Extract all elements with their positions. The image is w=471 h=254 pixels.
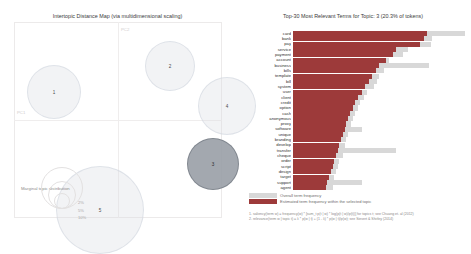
topic-frequency-bar [293, 127, 345, 132]
topic-circle-label-5: 5 [99, 208, 102, 213]
topic-circle-label-1: 1 [53, 90, 56, 95]
pc2-axis-label: PC2 [121, 27, 129, 32]
marginal-size-label-10%: 10% [78, 215, 86, 220]
topic-frequency-bar [293, 95, 358, 100]
marginal-size-label-5%: 5% [78, 208, 84, 213]
term-bar-chart: cardbankpayservicepaymentaccountbusiness… [259, 31, 467, 191]
intertopic-distance-map-panel: Intertopic Distance Map (via multidimens… [0, 0, 235, 243]
topic-frequency-bar [293, 137, 341, 142]
intertopic-map-title: Intertopic Distance Map (via multidimens… [0, 13, 235, 19]
pc1-axis-line [14, 120, 222, 121]
marginal-size-label-2%: 2% [78, 200, 84, 205]
topic-frequency-bar [293, 159, 334, 164]
topic-frequency-bar [293, 42, 420, 47]
footnote-line: 2. relevance(term w | topic t) = λ * p(w… [249, 217, 471, 222]
topic-frequency-bar [293, 105, 353, 110]
term-bar-row[interactable]: agent [259, 185, 467, 190]
pc1-axis-label: PC1 [17, 110, 25, 115]
top-terms-title: Top-30 Most Relevant Terms for Topic: 3 … [235, 13, 471, 19]
term-label: agent [259, 185, 291, 190]
topic-frequency-bar [293, 63, 379, 68]
legend-text-estimated-term-frequency: Estimated term frequency within the sele… [280, 199, 371, 204]
top-terms-panel: Top-30 Most Relevant Terms for Topic: 3 … [235, 0, 471, 243]
topic-frequency-bar [293, 52, 393, 57]
topic-frequency-bar [293, 116, 348, 121]
topic-frequency-bar [293, 175, 329, 180]
topic-frequency-bar [293, 148, 338, 153]
topic-circle-label-2: 2 [169, 64, 172, 69]
topic-circle-label-3: 3 [212, 162, 215, 167]
topic-frequency-bar [293, 74, 372, 79]
legend-text-overall-term-frequency: Overall term frequency [280, 193, 321, 198]
formula-footnotes: 1. saliency(term w) = frequency(w) * [su… [249, 212, 471, 222]
topic-frequency-bar [293, 185, 326, 190]
topic-frequency-bar [293, 84, 365, 89]
legend-swatch-overall-term-frequency [249, 193, 277, 198]
legend-swatch-estimated-term-frequency [249, 199, 277, 204]
marginal-size-circle-10% [41, 167, 83, 209]
topic-circle-label-4: 4 [226, 104, 229, 109]
